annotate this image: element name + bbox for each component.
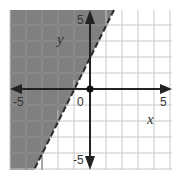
y-max-label: 5 <box>77 13 84 27</box>
x-max-label: 5 <box>160 95 167 109</box>
y-axis-down-arrow-icon <box>85 156 95 170</box>
y-axis-label: y <box>55 31 64 47</box>
inequality-graph: -5 0 5 5 -5 x y <box>0 0 179 179</box>
x-axis-label: x <box>146 111 154 127</box>
x-min-label: -5 <box>13 95 24 109</box>
y-min-label: -5 <box>73 153 84 167</box>
origin-point <box>87 86 94 93</box>
origin-label: 0 <box>77 95 84 109</box>
